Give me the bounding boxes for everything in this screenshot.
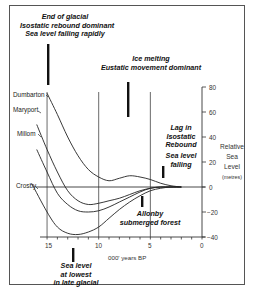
x-tick-0: 0 — [200, 242, 204, 249]
marker-bar — [141, 196, 143, 207]
y-label-line: Relative — [219, 142, 245, 152]
annotation-line: Eustatic movement dominant — [96, 64, 206, 73]
site-label-millom: Millom — [17, 130, 35, 137]
annotation-line: in late glacial — [46, 279, 106, 288]
y-label-line: Sea — [219, 152, 245, 162]
allonby-annotation: Allonby submerged forest — [110, 210, 190, 227]
y-tick-0: 0 — [209, 184, 213, 191]
y-units: (metres) — [219, 172, 245, 182]
lowest-annotation: Sea level at lowest in late glacial — [46, 262, 106, 288]
x-axis-label: 000' years BP — [108, 254, 146, 261]
x-tick-10: 10 — [95, 242, 102, 249]
marker-bar — [47, 44, 49, 85]
y-label-line: Level — [219, 162, 245, 172]
sea-level-falling-annotation: Sea level falling — [158, 152, 204, 169]
y-tick-40: 40 — [209, 134, 216, 141]
y-tick-neg20: −20 — [207, 209, 218, 216]
y-tick-80: 80 — [209, 84, 216, 91]
annotation-line: Sea level falling rapidly — [20, 30, 110, 39]
site-label-crosby: Crosby — [16, 182, 36, 189]
ice-melting-annotation: Ice melting Eustatic movement dominant — [96, 55, 206, 72]
site-leader — [38, 111, 41, 113]
site-label-dumbarton: Dumbarton — [13, 91, 45, 98]
y-tick-20: 20 — [209, 159, 216, 166]
x-tick-15: 15 — [45, 242, 52, 249]
annotation-line: falling — [158, 161, 204, 170]
y-tick-neg40: −40 — [207, 234, 218, 241]
marker-bars — [47, 44, 164, 262]
marker-bar — [127, 82, 129, 117]
marker-bar — [72, 248, 74, 262]
y-tick-60: 60 — [209, 109, 216, 116]
lag-isostatic-annotation: Lag in Isostatic Rebound — [158, 124, 204, 150]
end-glacial-annotation: End of glacial Isostatic rebound dominan… — [20, 13, 110, 39]
y-axis-label: Relative Sea Level (metres) — [219, 142, 245, 182]
site-label-maryport: Maryport — [13, 106, 38, 113]
annotation-line: Rebound — [158, 141, 204, 150]
annotation-line: submerged forest — [110, 219, 190, 228]
x-tick-5: 5 — [148, 242, 152, 249]
